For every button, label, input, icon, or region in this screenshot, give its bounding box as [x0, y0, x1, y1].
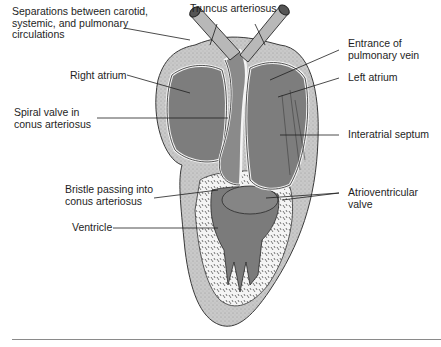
label-av-valve: Atrioventricular valve — [348, 187, 418, 210]
bottom-rule — [12, 339, 441, 340]
label-truncus: Truncus arteriosus — [190, 3, 277, 15]
label-spiral-valve: Spiral valve in conus arteriosus — [14, 107, 91, 130]
label-pulmonary-vein: Entrance of pulmonary vein — [348, 38, 419, 61]
right-atrium-chamber — [167, 65, 226, 162]
label-separations: Separations between carotid, systemic, a… — [12, 6, 148, 41]
left-atrium-chamber — [246, 63, 308, 190]
label-left-atrium: Left atrium — [348, 72, 398, 84]
label-ventricle: Ventricle — [72, 222, 112, 234]
label-bristle: Bristle passing into conus arteriosus — [65, 184, 153, 207]
label-right-atrium: Right atrium — [70, 70, 127, 82]
label-interatrial-septum: Interatrial septum — [348, 129, 429, 141]
